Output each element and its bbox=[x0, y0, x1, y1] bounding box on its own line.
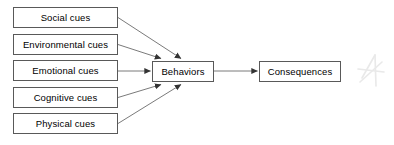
node-social-cues-label: Social cues bbox=[41, 13, 91, 23]
node-emotional-cues-label: Emotional cues bbox=[32, 66, 98, 76]
node-physical-cues[interactable]: Physical cues bbox=[13, 113, 118, 134]
node-emotional-cues[interactable]: Emotional cues bbox=[13, 60, 118, 81]
node-environmental-cues-label: Environmental cues bbox=[23, 40, 108, 50]
diagram-canvas: Social cues Environmental cues Emotional… bbox=[0, 0, 394, 145]
node-consequences[interactable]: Consequences bbox=[259, 61, 341, 82]
node-physical-cues-label: Physical cues bbox=[36, 119, 95, 129]
edge-cognitive-to-behaviors bbox=[118, 85, 161, 98]
node-cognitive-cues[interactable]: Cognitive cues bbox=[13, 87, 118, 108]
edge-social-to-behaviors bbox=[118, 18, 181, 59]
node-cognitive-cues-label: Cognitive cues bbox=[34, 93, 98, 103]
node-behaviors-label: Behaviors bbox=[161, 67, 204, 77]
node-consequences-label: Consequences bbox=[268, 67, 333, 77]
node-behaviors[interactable]: Behaviors bbox=[152, 61, 214, 82]
node-environmental-cues[interactable]: Environmental cues bbox=[13, 34, 118, 55]
edge-environmental-to-behaviors bbox=[118, 45, 161, 59]
edge-physical-to-behaviors bbox=[118, 85, 181, 124]
watermark-icon bbox=[355, 52, 387, 92]
node-social-cues[interactable]: Social cues bbox=[13, 7, 118, 28]
